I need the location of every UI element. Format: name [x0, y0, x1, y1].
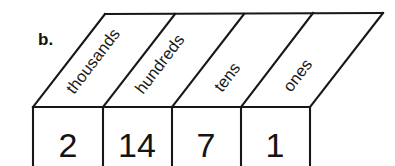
cell-value-hundreds: 14 — [118, 126, 156, 164]
place-value-chart-drawing: b. thousands hundreds tens ones 2 14 7 1 — [0, 0, 395, 166]
cell-value-thousands: 2 — [59, 126, 78, 164]
cell-value-ones: 1 — [266, 126, 285, 164]
cell-value-tens: 7 — [197, 126, 216, 164]
place-value-chart: b. thousands hundreds tens ones 2 14 7 1 — [0, 0, 395, 166]
item-label: b. — [38, 30, 54, 49]
